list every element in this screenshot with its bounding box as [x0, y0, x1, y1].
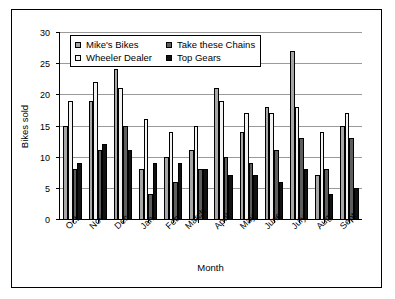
legend-swatch-icon — [166, 42, 172, 48]
bar[interactable] — [153, 163, 158, 219]
x-axis-tick-label-cell: Aug — [312, 222, 337, 256]
x-axis-tick-label-cell: Oct — [59, 222, 84, 256]
y-axis-tick-label: 15 — [40, 122, 50, 132]
x-axis-tick-label-cell: Jan — [135, 222, 160, 256]
x-axis-tick-label-cell: July — [286, 222, 311, 256]
x-axis-tick-labels: OctNovDecJanFebMarchAprilMayJuneJulyAugS… — [59, 222, 362, 256]
legend-swatch-icon — [75, 42, 81, 48]
x-axis-title: Month — [59, 262, 362, 273]
chart-frame: Bikes sold 051015202530 Mike's BikesTake… — [11, 9, 382, 288]
bar[interactable] — [77, 163, 82, 219]
bar[interactable] — [102, 144, 107, 219]
bar[interactable] — [304, 169, 309, 219]
bar-group — [287, 32, 312, 219]
bar-group — [312, 32, 337, 219]
bar-group — [261, 32, 286, 219]
x-axis-tick-label-cell: March — [185, 222, 210, 256]
x-axis-tick-label-cell: April — [211, 222, 236, 256]
y-axis-tick: 0 — [56, 219, 60, 220]
bar-group — [337, 32, 362, 219]
x-axis-tick-label-cell: May — [236, 222, 261, 256]
legend-item[interactable]: Take these Chains — [166, 39, 255, 50]
x-axis-tick-label-cell: Dec — [110, 222, 135, 256]
y-axis-tick-label: 10 — [40, 153, 50, 163]
legend-swatch-icon — [166, 55, 172, 61]
y-axis-tick-label: 5 — [45, 184, 50, 194]
chart-legend: Mike's BikesTake these ChainsWheeler Dea… — [70, 35, 261, 67]
x-axis-tick-label-cell: June — [261, 222, 286, 256]
y-axis-tick-label: 20 — [40, 90, 50, 100]
y-axis-tick-label: 0 — [45, 215, 50, 225]
bar[interactable] — [128, 150, 133, 219]
legend-swatch-icon — [75, 55, 81, 61]
bar[interactable] — [253, 175, 258, 219]
legend-label: Top Gears — [177, 52, 221, 63]
y-axis-title: Bikes sold — [18, 32, 32, 220]
x-axis-tick-label-cell: Feb — [160, 222, 185, 256]
x-axis-tick-label-cell: Sept — [337, 222, 362, 256]
legend-item[interactable]: Top Gears — [166, 52, 255, 63]
legend-label: Wheeler Dealer — [86, 52, 152, 63]
x-axis-title-label: Month — [197, 262, 223, 273]
legend-item[interactable]: Mike's Bikes — [75, 39, 152, 50]
y-axis-tick-label: 30 — [40, 28, 50, 38]
bar[interactable] — [329, 194, 334, 219]
y-axis-title-label: Bikes sold — [20, 104, 31, 147]
legend-label: Take these Chains — [177, 39, 255, 50]
bar[interactable] — [228, 175, 233, 219]
y-axis-tick-label: 25 — [40, 59, 50, 69]
legend-label: Mike's Bikes — [86, 39, 139, 50]
bar[interactable] — [178, 163, 183, 219]
legend-item[interactable]: Wheeler Dealer — [75, 52, 152, 63]
x-axis-tick-label-cell: Nov — [84, 222, 109, 256]
